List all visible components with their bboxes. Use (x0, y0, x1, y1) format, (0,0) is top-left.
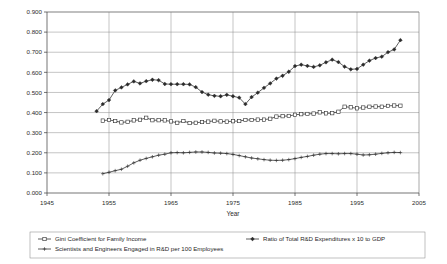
data-point (399, 151, 403, 155)
data-point (107, 98, 111, 102)
data-point (182, 119, 185, 122)
data-point (275, 115, 278, 118)
data-point (151, 78, 155, 82)
data-point (337, 110, 340, 113)
data-point (113, 169, 117, 173)
data-point (250, 118, 253, 121)
data-point (312, 65, 316, 69)
data-point (300, 112, 303, 115)
data-point (107, 170, 111, 174)
data-point (145, 116, 148, 119)
data-point (349, 67, 353, 71)
data-point (343, 152, 347, 156)
data-point (393, 104, 396, 107)
data-point (169, 82, 173, 86)
data-point (262, 118, 265, 121)
data-point (126, 83, 130, 87)
legend-label: Ratio of Total R&D Expenditures x 10 to … (263, 235, 385, 242)
data-point (287, 158, 291, 162)
data-point (269, 117, 272, 120)
y-tick-label: 0.800 (27, 28, 43, 35)
data-point (256, 157, 260, 161)
data-point (151, 118, 154, 121)
data-point (355, 107, 358, 110)
data-point (349, 106, 352, 109)
chart-legend: Gini Coefficient for Family IncomeRatio … (30, 232, 425, 258)
data-point (144, 157, 148, 161)
data-point (138, 81, 142, 85)
data-point (157, 118, 160, 121)
data-point (175, 151, 179, 155)
y-tick-label: 0.600 (27, 69, 43, 76)
y-axis-tick-labels: 0.0000.1000.2000.3000.4000.5000.6000.700… (27, 8, 47, 196)
data-point (386, 104, 389, 107)
data-point (281, 114, 284, 117)
data-point (200, 150, 204, 154)
data-point (126, 120, 129, 123)
data-point (281, 158, 285, 162)
x-axis-tick-labels: 1945195519651975198519952005 (40, 193, 426, 206)
data-point (312, 153, 316, 157)
data-point (399, 104, 402, 107)
data-point (361, 153, 365, 157)
data-point (368, 59, 372, 63)
y-tick-label: 0.700 (27, 48, 43, 55)
y-tick-label: 0.900 (27, 8, 43, 15)
data-point (144, 79, 148, 83)
data-point (392, 151, 396, 155)
data-point (318, 111, 321, 114)
data-point (157, 153, 161, 157)
legend-marker-open-square (43, 237, 46, 240)
data-point (207, 120, 210, 123)
data-point (299, 156, 303, 160)
data-point (324, 112, 327, 115)
x-tick-label: 1995 (350, 199, 364, 206)
data-point (237, 154, 241, 158)
data-point (132, 119, 135, 122)
legend-item-2[interactable]: Scientists and Engineers Engaged in R&D … (38, 245, 223, 252)
data-point (380, 105, 383, 108)
legend-marker-plus (43, 247, 47, 251)
data-point (206, 93, 210, 97)
data-point (262, 158, 266, 162)
data-point (343, 105, 346, 108)
data-point (231, 120, 234, 123)
data-point (293, 157, 297, 161)
data-point (250, 156, 254, 160)
data-point (281, 74, 285, 78)
data-point (188, 121, 191, 124)
data-point (306, 64, 310, 68)
data-point (374, 105, 377, 108)
line-chart: 0.0000.1000.2000.3000.4000.5000.6000.700… (0, 0, 447, 264)
data-point (120, 121, 123, 124)
data-point (293, 113, 296, 116)
x-tick-label: 1975 (226, 199, 240, 206)
data-point (324, 60, 328, 64)
data-point (219, 120, 222, 123)
legend-item-0[interactable]: Gini Coefficient for Family Income (38, 235, 147, 242)
data-point (331, 111, 334, 114)
data-point (169, 151, 173, 155)
data-point (188, 151, 192, 155)
data-point (238, 119, 241, 122)
x-tick-label: 1985 (288, 199, 302, 206)
data-point (120, 86, 124, 90)
data-point (380, 152, 384, 156)
data-point (330, 152, 334, 156)
data-point (374, 56, 378, 60)
x-tick-label: 1965 (164, 199, 178, 206)
data-point (362, 106, 365, 109)
data-point (368, 153, 372, 157)
data-point (169, 120, 172, 123)
data-point (312, 112, 315, 115)
data-point (244, 118, 247, 121)
data-point (324, 152, 328, 156)
data-point (268, 158, 272, 162)
data-point (287, 114, 290, 117)
data-point (188, 83, 192, 87)
data-point (194, 150, 198, 154)
legend-item-1[interactable]: Ratio of Total R&D Expenditures x 10 to … (246, 235, 385, 242)
data-point (113, 89, 117, 93)
y-tick-label: 0.000 (27, 189, 43, 196)
y-tick-label: 0.400 (27, 109, 43, 116)
